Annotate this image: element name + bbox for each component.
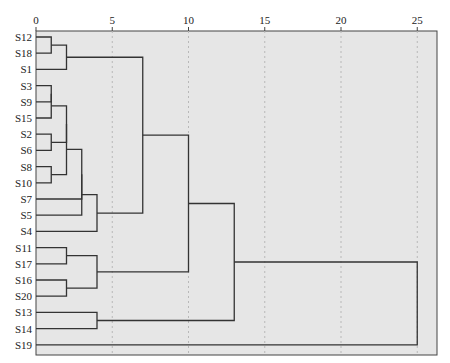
leaf-label: S1 <box>20 63 32 75</box>
leaf-label: S16 <box>15 274 33 286</box>
leaf-label: S11 <box>15 242 32 254</box>
leaf-label: S15 <box>15 112 33 124</box>
leaf-label: S14 <box>15 323 33 335</box>
leaf-label: S6 <box>20 144 32 156</box>
leaf-label: S12 <box>15 31 32 43</box>
leaf-label: S13 <box>15 306 33 318</box>
leaf-label: S17 <box>15 258 33 270</box>
leaf-label: S3 <box>20 80 32 92</box>
leaf-label: S19 <box>15 339 33 351</box>
plot-area <box>36 31 437 355</box>
leaf-label: S18 <box>15 47 33 59</box>
x-tick-label: 10 <box>183 14 195 26</box>
x-tick-label: 20 <box>336 14 348 26</box>
leaf-label: S10 <box>15 177 33 189</box>
leaf-label: S2 <box>20 128 32 140</box>
leaf-label: S7 <box>20 193 32 205</box>
x-tick-label: 0 <box>33 14 39 26</box>
dendrogram-chart: 0510152025 S12S18S1S3S9S15S2S6S8S10S7S5S… <box>0 0 450 363</box>
leaf-label: S9 <box>20 96 32 108</box>
leaf-label: S5 <box>20 209 32 221</box>
x-tick-label: 15 <box>259 14 271 26</box>
x-tick-label: 25 <box>412 14 424 26</box>
leaf-label: S8 <box>20 161 32 173</box>
leaf-labels: S12S18S1S3S9S15S2S6S8S10S7S5S4S11S17S16S… <box>15 31 33 351</box>
x-axis: 0510152025 <box>33 14 423 31</box>
leaf-label: S20 <box>15 290 33 302</box>
leaf-label: S4 <box>20 225 32 237</box>
x-tick-label: 5 <box>110 14 116 26</box>
